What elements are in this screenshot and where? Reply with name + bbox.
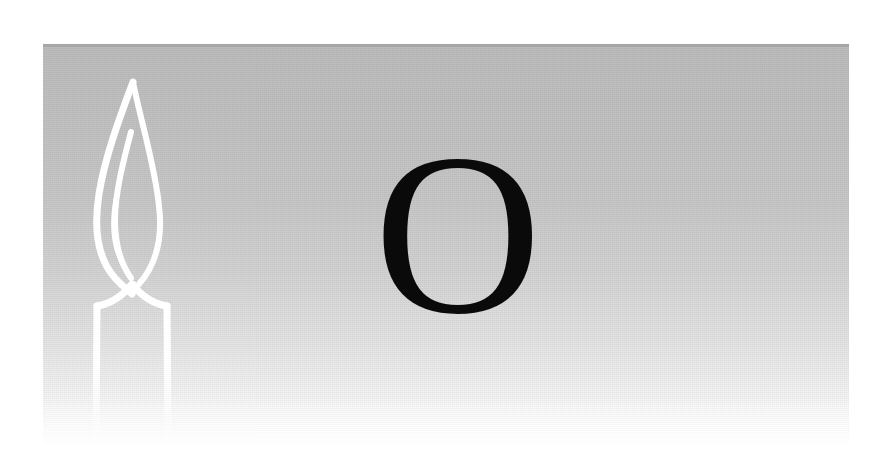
letter-o: O <box>374 136 504 336</box>
scanned-page: O <box>0 0 878 466</box>
plate-top-edge <box>43 44 849 47</box>
